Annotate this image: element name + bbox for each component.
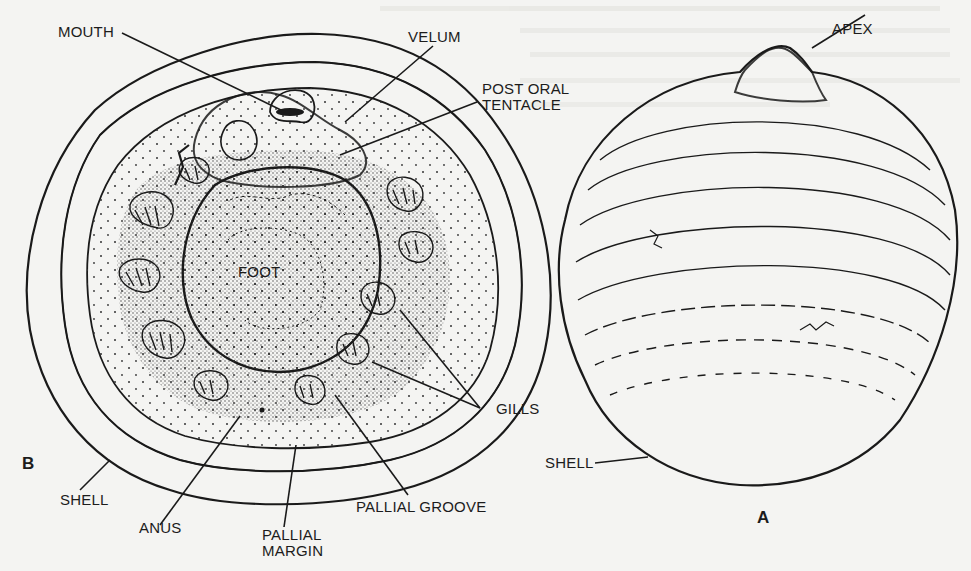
label-anus: ANUS [139,519,181,536]
label-pallial-groove: PALLIAL GROOVE [356,498,486,515]
label-shell-a: SHELL [545,454,594,471]
label-post-oral-tentacle-2: TENTACLE [482,96,561,113]
label-gills: GILLS [496,400,540,417]
panel-label-a: A [757,508,769,527]
label-foot: FOOT [238,263,280,280]
anus-opening [260,408,265,413]
panel-a-dorsal-view [559,46,957,485]
label-mouth: MOUTH [58,23,114,40]
label-apex: APEX [832,20,873,37]
panel-label-b: B [22,454,34,473]
figure: MOUTH VELUM POST ORAL TENTACLE FOOT GILL… [0,0,971,571]
label-velum: VELUM [408,28,461,45]
label-shell-b: SHELL [60,491,109,508]
label-post-oral-tentacle-1: POST ORAL [482,80,569,97]
label-pallial-margin-2: MARGIN [262,542,323,559]
growth-lines [576,122,950,400]
label-pallial-margin-1: PALLIAL [262,526,322,543]
